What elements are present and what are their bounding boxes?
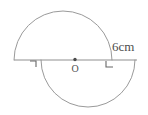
center-point-label: O (71, 63, 78, 74)
upper-semicircle-arc (14, 11, 112, 60)
center-dot-icon (73, 58, 76, 61)
right-angle-tick-left-icon (30, 61, 36, 67)
right-angle-tick-right-icon (106, 61, 113, 67)
geometry-figure: O 6cm (0, 0, 148, 115)
measure-label: 6cm (112, 39, 134, 54)
geometry-canvas: O 6cm (0, 0, 148, 115)
lower-semicircle-arc (41, 60, 135, 107)
